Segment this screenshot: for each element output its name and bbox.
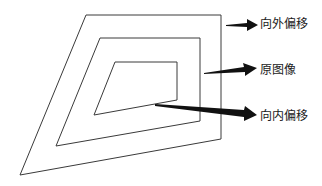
label-inward-offset: 向内偏移 [260, 109, 308, 123]
original-polygon [56, 38, 200, 146]
arrow-outward-icon [226, 19, 258, 31]
arrow-inward-icon [155, 104, 257, 121]
arrow-original-icon [204, 63, 257, 76]
label-outward-offset: 向外偏移 [260, 17, 308, 31]
outer-offset-polygon [20, 15, 221, 175]
label-original-image: 原图像 [260, 63, 296, 77]
